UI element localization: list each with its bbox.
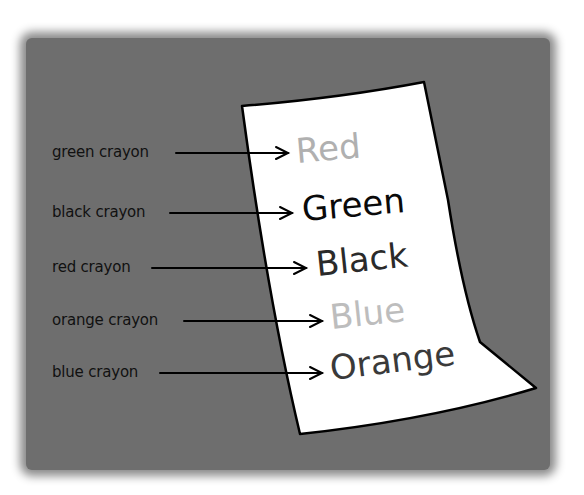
label-orange-crayon: orange crayon xyxy=(52,311,158,329)
word-red: Red xyxy=(294,125,362,170)
word-blue: Blue xyxy=(328,289,407,337)
label-blue-crayon: blue crayon xyxy=(52,363,138,381)
label-green-crayon: green crayon xyxy=(52,143,149,161)
label-red-crayon: red crayon xyxy=(52,258,131,276)
paper-and-arrows xyxy=(0,0,584,495)
label-black-crayon: black crayon xyxy=(52,203,145,221)
